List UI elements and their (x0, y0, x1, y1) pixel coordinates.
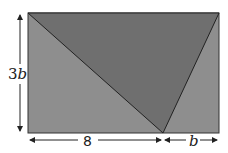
height-label: 3b (8, 65, 27, 83)
base-right-label: b (189, 132, 199, 150)
base-left-label: 8 (83, 133, 92, 149)
geometry-diagram: 3b 8 b (0, 0, 228, 153)
